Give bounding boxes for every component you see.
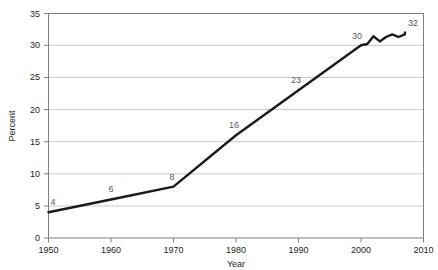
- y-tick-labels: 35 30 25 20 15 10 5 0: [30, 9, 40, 244]
- x-axis-ticks: [49, 238, 424, 243]
- data-label-1980: 16: [229, 120, 239, 130]
- data-label-1950: 4: [50, 197, 55, 207]
- data-label-2000: 30: [352, 31, 362, 41]
- data-label-1960: 6: [108, 184, 113, 194]
- y-tick-label-15: 15: [30, 137, 40, 147]
- y-tick-label-30: 30: [30, 40, 40, 50]
- y-tick-label-0: 0: [35, 233, 40, 243]
- y-tick-label-5: 5: [35, 201, 40, 211]
- data-label-2008: 32: [408, 18, 418, 28]
- x-axis-title: Year: [227, 259, 245, 269]
- x-tick-label-2010: 2010: [413, 245, 433, 255]
- data-label-1970: 8: [169, 172, 174, 182]
- y-tick-label-35: 35: [30, 9, 40, 19]
- y-tick-label-20: 20: [30, 105, 40, 115]
- y-axis-ticks: [44, 14, 49, 239]
- x-tick-label-1970: 1970: [163, 245, 183, 255]
- line-chart: 35 30 25 20 15 10 5 0 1950 1960 1970 198…: [0, 0, 438, 270]
- cut-off-chart-title: [62, 0, 282, 2]
- x-tick-label-1990: 1990: [288, 245, 308, 255]
- chart-container: 35 30 25 20 15 10 5 0 1950 1960 1970 198…: [0, 0, 438, 270]
- x-tick-label-1960: 1960: [101, 245, 121, 255]
- x-tick-label-1980: 1980: [226, 245, 246, 255]
- x-tick-label-1950: 1950: [38, 245, 58, 255]
- y-tick-label-10: 10: [30, 169, 40, 179]
- x-tick-labels: 1950 1960 1970 1980 1990 2000 2010: [38, 245, 433, 255]
- y-tick-label-25: 25: [30, 72, 40, 82]
- y-axis-title: Percent: [7, 110, 17, 142]
- data-label-1990: 23: [291, 75, 301, 85]
- x-tick-label-2000: 2000: [351, 245, 371, 255]
